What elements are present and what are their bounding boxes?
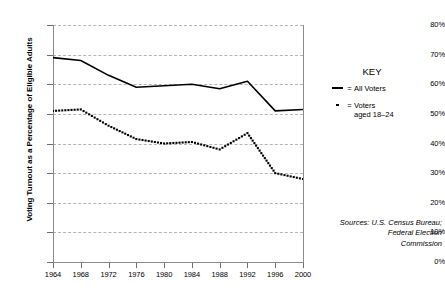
x-tick-label: 2000 (283, 270, 323, 279)
sources-line-3: Commission (318, 239, 442, 249)
sources-line-1: Sources: U.S. Census Bureau; (318, 218, 442, 228)
chart-page: Voting Turnout as a Percentage of Eligib… (0, 0, 445, 301)
y-tick-label: 30% (401, 168, 445, 177)
y-tick-label: 70% (401, 50, 445, 59)
legend-dot-icon (330, 101, 345, 107)
square-dot-marker (336, 104, 339, 107)
legend-item-label: All Voters (354, 84, 386, 94)
series-dots-young-voters (53, 108, 303, 180)
y-tick-label: 40% (401, 139, 445, 148)
y-tick-label: 0% (401, 257, 445, 266)
series-plot (53, 25, 303, 263)
y-tick-label: 80% (401, 20, 445, 29)
legend: KEY =All Voters=Votersaged 18–24 (330, 66, 442, 127)
legend-item: =Votersaged 18–24 (330, 101, 442, 120)
y-axis-title: Voting Turnout as a Percentage of Eligib… (25, 20, 34, 240)
legend-item: =All Voters (330, 84, 442, 94)
legend-rows: =All Voters=Votersaged 18–24 (330, 84, 442, 120)
legend-equals-sign: = (345, 84, 354, 93)
y-tick-label: 20% (401, 198, 445, 207)
axis-line-right (303, 25, 304, 263)
legend-item-label: Votersaged 18–24 (354, 101, 394, 120)
legend-equals-sign: = (345, 101, 354, 110)
legend-line-icon (330, 84, 345, 89)
legend-title: KEY (336, 66, 408, 77)
series-line-all-voters (53, 58, 303, 111)
sources-note: Sources: U.S. Census Bureau; Federal Ele… (318, 218, 442, 249)
solid-line-marker (332, 87, 343, 89)
sources-line-2: Federal Election (318, 228, 442, 238)
